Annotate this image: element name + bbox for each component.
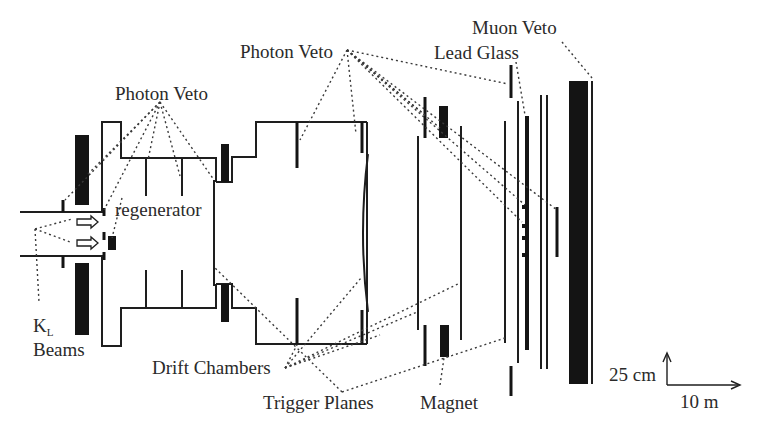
magnet-top xyxy=(439,106,448,138)
label-photon-veto-right: Photon Veto xyxy=(240,42,333,61)
decay-tank-outline xyxy=(102,122,367,346)
label-lead-glass: Lead Glass xyxy=(434,43,519,62)
kl-main: K xyxy=(33,315,47,336)
photon-veto-upstream-top xyxy=(75,135,89,205)
label-kl: KL xyxy=(33,316,53,338)
label-trigger-planes: Trigger Planes xyxy=(263,393,374,412)
label-scale-vertical: 25 cm xyxy=(609,365,656,384)
beam-arrow-icons xyxy=(77,216,98,249)
magnet-bottom xyxy=(440,325,449,357)
label-drift-chambers: Drift Chambers xyxy=(152,358,271,377)
beam-pipes xyxy=(20,200,104,268)
lead-glass xyxy=(525,116,529,350)
photon-veto-neck-top xyxy=(221,144,229,182)
label-beams: Beams xyxy=(33,340,85,359)
detector-diagram: Photon Veto Photon Veto regenerator KL B… xyxy=(0,0,758,429)
label-photon-veto-left: Photon Veto xyxy=(115,84,208,103)
photon-veto-neck-bottom xyxy=(221,284,229,322)
scale-bar xyxy=(663,353,740,389)
label-muon-veto: Muon Veto xyxy=(472,18,557,37)
muon-veto-block xyxy=(569,81,588,384)
label-regenerator: regenerator xyxy=(115,200,202,219)
kl-sub: L xyxy=(47,326,54,338)
drift-chambers xyxy=(418,101,518,363)
regenerator-block xyxy=(108,236,116,250)
photon-veto-upstream-bottom xyxy=(75,263,89,335)
label-scale-horizontal: 10 m xyxy=(680,392,719,411)
label-magnet: Magnet xyxy=(420,393,478,412)
